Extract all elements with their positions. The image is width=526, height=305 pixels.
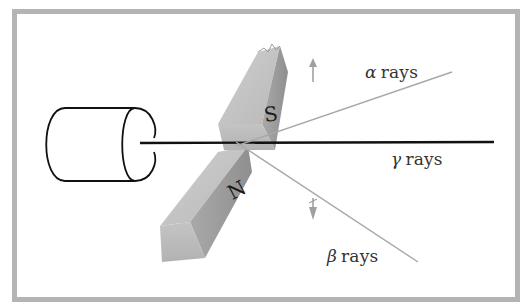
- beta-text: rays: [341, 246, 378, 266]
- magnet-north-pole: [160, 146, 252, 262]
- gamma-symbol: γ: [391, 149, 401, 169]
- beta-rays-label: βrays: [327, 246, 378, 266]
- alpha-symbol: α: [365, 62, 377, 82]
- magnet-south-pole: [218, 44, 288, 150]
- beta-deflection-arrow-down-icon: [309, 198, 317, 220]
- alpha-text: rays: [381, 62, 418, 82]
- radioactive-source-cylinder: [46, 108, 155, 181]
- beta-symbol: β: [327, 246, 337, 266]
- alpha-rays-label: αrays: [365, 62, 418, 82]
- gamma-ray-beam: [140, 142, 494, 143]
- gamma-rays-label: γrays: [391, 149, 443, 169]
- diagram-canvas: [0, 0, 526, 305]
- gamma-text: rays: [405, 149, 442, 169]
- alpha-deflection-arrow-up-icon: [309, 58, 317, 82]
